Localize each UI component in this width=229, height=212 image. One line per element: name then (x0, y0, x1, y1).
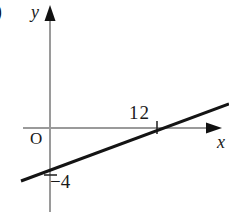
x-intercept-label: 12 (129, 103, 150, 122)
coordinate-plane-graphic (0, 0, 229, 212)
x-axis-label: x (217, 133, 225, 151)
plotted-line (21, 104, 229, 181)
y-axis-label: y (31, 3, 39, 21)
origin-label: O (30, 130, 42, 147)
y-axis-arrowhead (45, 5, 56, 21)
figure-canvas: ) y x O 12 −4 (0, 0, 229, 212)
x-axis-group (23, 123, 222, 134)
item-number-marker: ) (0, 1, 2, 22)
y-intercept-label: −4 (50, 172, 70, 191)
